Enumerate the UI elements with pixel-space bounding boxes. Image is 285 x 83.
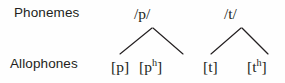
phoneme-allophone-diagram: Phonemes Allophones /p/ /t/ [p] [ph] [t]… xyxy=(0,0,285,83)
phoneme-node-p: /p/ xyxy=(134,6,150,22)
row-label-allophones: Allophones xyxy=(10,56,78,71)
branch-line-p-to-p-plain xyxy=(120,28,152,54)
branch-line-t-to-t-aspirated xyxy=(242,28,268,54)
branch-line-p-to-p-aspirated xyxy=(153,28,183,54)
row-label-phonemes: Phonemes xyxy=(14,5,79,20)
allophone-node-t-aspirated: [th] xyxy=(247,59,267,75)
allophone-p-asp-close: ] xyxy=(157,58,162,75)
allophone-p-asp-base: [p xyxy=(139,58,152,75)
allophone-node-t-plain: [t] xyxy=(203,59,218,75)
branch-line-t-to-t-plain xyxy=(211,28,241,54)
allophone-t-asp-close: ] xyxy=(262,58,267,75)
phoneme-node-t: /t/ xyxy=(224,6,237,22)
allophone-node-p-aspirated: [ph] xyxy=(139,59,162,75)
allophone-node-p-plain: [p] xyxy=(111,59,129,75)
